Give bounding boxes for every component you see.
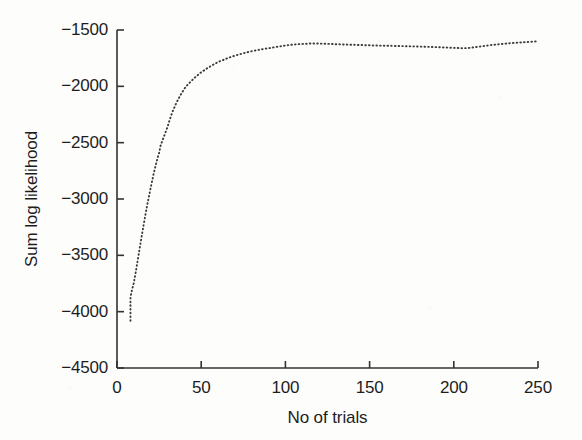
y-tick-label: −2500 (61, 133, 108, 153)
x-tick-label: 200 (440, 378, 468, 398)
y-tick-marks (117, 30, 124, 368)
x-axis-title: No of trials (287, 408, 367, 428)
y-axis-title: Sum log likelihood (22, 131, 42, 267)
series-line (130, 41, 538, 320)
y-tick-label: −3000 (61, 189, 108, 209)
y-tick-label: −1500 (61, 20, 108, 40)
axis-spines (117, 30, 538, 368)
y-tick-label: −4500 (61, 358, 108, 378)
x-tick-marks (117, 361, 538, 368)
x-tick-label: 250 (524, 378, 552, 398)
data-series-sum-log-likelihood (130, 41, 538, 320)
x-tick-label: 150 (356, 378, 384, 398)
y-tick-label: −2000 (61, 76, 108, 96)
y-tick-label: −3500 (61, 245, 108, 265)
x-tick-label: 100 (272, 378, 300, 398)
x-tick-label: 50 (192, 378, 211, 398)
y-tick-label: −4000 (61, 302, 108, 322)
chart-figure: −4500−4000−3500−3000−2500−2000−1500 0501… (0, 0, 582, 440)
x-tick-label: 0 (112, 378, 121, 398)
